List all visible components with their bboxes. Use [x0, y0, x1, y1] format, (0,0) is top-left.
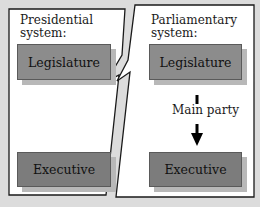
parliamentary-title: Parliamentary system: [151, 14, 237, 40]
title-line: system: [20, 27, 93, 40]
main-party-label: Main party [170, 104, 241, 117]
legislature-box-parliamentary: Legislature [149, 44, 242, 80]
title-line: system: [151, 27, 237, 40]
box-label: Legislature [28, 55, 100, 70]
executive-box-presidential: Executive [17, 152, 111, 187]
presidential-title: Presidential system: [20, 14, 93, 40]
box-label: Executive [33, 162, 95, 177]
box-label: Legislature [159, 55, 231, 70]
box-label: Executive [164, 162, 226, 177]
executive-box-parliamentary: Executive [149, 152, 242, 187]
legislature-box-presidential: Legislature [17, 44, 111, 80]
